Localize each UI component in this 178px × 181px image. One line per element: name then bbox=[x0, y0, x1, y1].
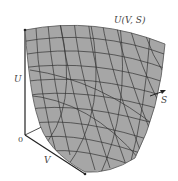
s-axis-label: S bbox=[161, 95, 167, 105]
v-axis-end-dot bbox=[84, 173, 87, 176]
v-axis-label: V bbox=[44, 155, 52, 165]
u-axis-end-dot bbox=[24, 29, 27, 32]
surface bbox=[20, 20, 170, 175]
surface-title-label: U(V, S) bbox=[114, 15, 146, 25]
surface-diagram: U(V, S) U 0 V S bbox=[0, 0, 178, 181]
origin-label: 0 bbox=[18, 135, 23, 144]
u-axis-label: U bbox=[14, 74, 22, 84]
